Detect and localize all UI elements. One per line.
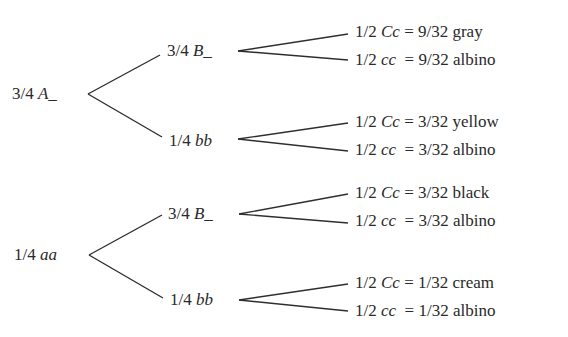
root-prob: 1/4 bbox=[14, 245, 36, 264]
outcome-gray: 1/2 Cc = 9/32 gray bbox=[355, 22, 483, 42]
outcome-albino: 1/2 cc = 9/32 albino bbox=[355, 50, 495, 70]
branch-line bbox=[238, 34, 348, 51]
node-bb-under-aa: 1/4 bb bbox=[170, 290, 213, 310]
branch-line bbox=[89, 255, 163, 298]
outcome-albino: 1/2 cc = 1/32 albino bbox=[355, 301, 495, 321]
outcome-albino: 1/2 cc = 3/32 albino bbox=[355, 211, 495, 231]
root-node-A: 3/4 A_ bbox=[12, 84, 57, 104]
node-B-under-aa: 3/4 B_ bbox=[168, 204, 213, 224]
outcome-black: 1/2 Cc = 3/32 black bbox=[355, 183, 489, 203]
outcome-albino: 1/2 cc = 3/32 albino bbox=[355, 140, 495, 160]
root-node-aa: 1/4 aa bbox=[14, 245, 57, 265]
branch-line bbox=[239, 300, 348, 311]
outcome-cream: 1/2 Cc = 1/32 cream bbox=[355, 273, 494, 293]
branch-line bbox=[88, 94, 162, 137]
branch-line bbox=[89, 215, 162, 255]
branch-line bbox=[88, 55, 160, 94]
branch-line bbox=[239, 214, 348, 223]
outcome-yellow: 1/2 Cc = 3/32 yellow bbox=[355, 112, 499, 132]
branch-line bbox=[239, 194, 348, 214]
branch-line bbox=[238, 123, 348, 139]
node-B-under-A: 3/4 B_ bbox=[167, 41, 212, 61]
branch-line bbox=[239, 284, 348, 300]
branch-line bbox=[238, 51, 348, 60]
branch-diagram: 3/4 A_ 1/4 aa 3/4 B_ 1/4 bb 3/4 B_ 1/4 b… bbox=[0, 0, 568, 337]
branch-line bbox=[238, 139, 348, 151]
root-genotype: A_ bbox=[38, 84, 57, 103]
node-bb-under-A: 1/4 bb bbox=[169, 131, 212, 151]
root-prob: 3/4 bbox=[12, 84, 34, 103]
root-genotype: aa bbox=[40, 245, 57, 264]
